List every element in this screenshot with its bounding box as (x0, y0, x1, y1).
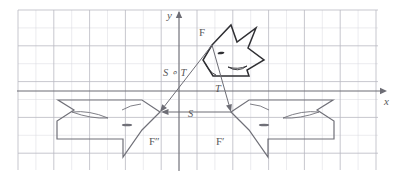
shape-eye-icon (122, 124, 132, 127)
axis-label-x: x (383, 95, 389, 107)
arrow-S-label: S (188, 108, 194, 119)
geometry-figure: xyFF′F″TS ∘ TS (0, 0, 397, 181)
shape-eye-icon (259, 124, 269, 127)
shape-label-F: F (199, 26, 205, 38)
arrow-S-compose-T-label: S ∘ T (163, 67, 188, 78)
shape-label-F-double-prime: F″ (149, 135, 160, 147)
diagram-canvas: xyFF′F″TS ∘ TS (0, 0, 397, 181)
axis-label-y: y (166, 9, 172, 21)
shape-label-F-prime: F′ (216, 135, 225, 147)
